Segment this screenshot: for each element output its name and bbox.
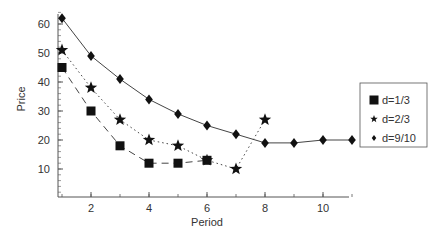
x-tick-label: 10 bbox=[317, 202, 329, 214]
plot-area bbox=[56, 13, 356, 174]
y-tick-label: 30 bbox=[38, 105, 50, 117]
series-square bbox=[58, 63, 212, 168]
legend-label: d=1/3 bbox=[382, 94, 410, 106]
y-tick-label: 60 bbox=[38, 18, 50, 30]
legend: d=1/3d=2/3d=9/10 bbox=[360, 83, 427, 147]
series-diamond bbox=[58, 13, 356, 148]
legend-label: d=2/3 bbox=[382, 113, 410, 125]
y-axis-label: Price bbox=[15, 86, 27, 111]
x-tick-label: 6 bbox=[204, 202, 210, 214]
x-tick-label: 4 bbox=[146, 202, 152, 214]
legend-label: d=9/10 bbox=[382, 132, 416, 144]
price-chart: 246810102030405060 Period Price d=1/3d=2… bbox=[0, 0, 446, 236]
y-tick-label: 10 bbox=[38, 163, 50, 175]
y-tick-label: 20 bbox=[38, 134, 50, 146]
x-tick-label: 2 bbox=[88, 202, 94, 214]
axes: 246810102030405060 bbox=[38, 12, 352, 214]
y-tick-label: 50 bbox=[38, 47, 50, 59]
y-tick-label: 40 bbox=[38, 76, 50, 88]
x-tick-label: 8 bbox=[262, 202, 268, 214]
x-axis-label: Period bbox=[191, 216, 223, 228]
